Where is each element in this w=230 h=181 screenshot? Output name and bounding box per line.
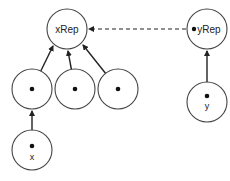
union-find-diagram: xRep yRep y x bbox=[0, 0, 230, 181]
node-child-1 bbox=[12, 69, 52, 109]
node-child-3 bbox=[98, 69, 138, 109]
node-yrep-label: yRep bbox=[197, 24, 221, 35]
node-y-dot bbox=[205, 94, 210, 99]
node-xrep: xRep bbox=[47, 9, 87, 49]
node-child-3-dot bbox=[116, 87, 121, 92]
node-xrep-label: xRep bbox=[55, 24, 79, 35]
node-y: y bbox=[187, 82, 227, 122]
node-x-circle bbox=[12, 130, 52, 170]
node-yrep-dot bbox=[192, 27, 196, 31]
node-x: x bbox=[12, 130, 52, 170]
node-x-label: x bbox=[30, 152, 35, 162]
node-x-dot bbox=[30, 144, 35, 149]
node-y-label: y bbox=[205, 101, 210, 111]
node-child-1-dot bbox=[30, 87, 35, 92]
node-yrep: yRep bbox=[187, 9, 227, 49]
node-child-2-dot bbox=[73, 87, 78, 92]
node-child-2 bbox=[55, 69, 95, 109]
